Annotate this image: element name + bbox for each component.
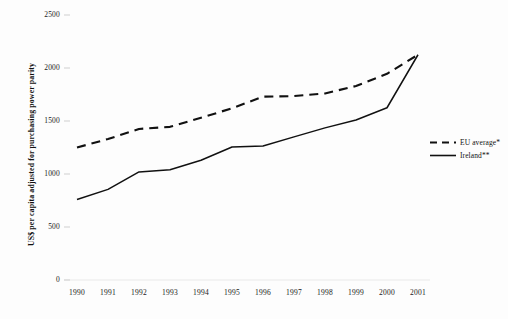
x-axis-tick-label: 2000 [370,288,404,297]
x-axis-tick-label: 1998 [308,288,342,297]
legend-swatch-dashed-icon [430,138,456,147]
legend-item-eu-average: EU average* [430,136,500,149]
x-axis-tick-label: 1997 [277,288,311,297]
x-axis-tick-label: 1994 [184,288,218,297]
legend-label-ireland: Ireland** [460,151,490,160]
y-axis-title: US$ per capita adjusted for purchasing p… [27,45,36,265]
y-axis-tick-label: 500 [16,222,60,231]
x-axis-tick-label: 1995 [215,288,249,297]
legend-label-eu-average: EU average* [460,138,500,147]
x-axis-tick-label: 2001 [401,288,435,297]
chart-legend: EU average* Ireland** [430,136,500,162]
y-axis-tick-label: 0 [16,275,60,284]
y-axis-tick-label: 1500 [16,116,60,125]
x-axis-tick-label: 1991 [91,288,125,297]
x-axis-tick-label: 1990 [60,288,94,297]
x-axis-tick-label: 1992 [122,288,156,297]
x-axis-tick-label: 1999 [339,288,373,297]
y-axis-tick-label: 2500 [16,10,60,19]
y-axis-tick-label: 2000 [16,63,60,72]
legend-swatch-solid-icon [430,151,456,160]
series-line-ireland [77,55,418,200]
y-axis-tick-marks [64,15,70,280]
series-line-eu-average [77,55,418,148]
chart-container: 05001000150020002500 1990199119921993199… [0,0,508,319]
x-axis-tick-label: 1993 [153,288,187,297]
x-axis-tick-label: 1996 [246,288,280,297]
y-axis-tick-label: 1000 [16,169,60,178]
legend-item-ireland: Ireland** [430,149,500,162]
